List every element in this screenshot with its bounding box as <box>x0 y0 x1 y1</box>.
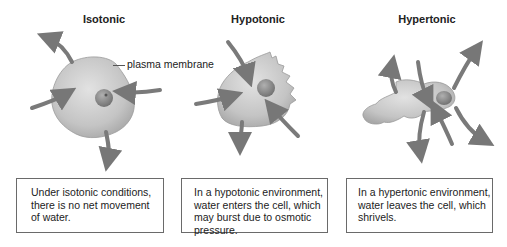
description-line: shrivels. <box>358 211 492 224</box>
isotonic-description-box: Under isotonic conditions, there is no n… <box>16 178 164 233</box>
description-line: In a hypertonic environment, <box>358 186 492 199</box>
hypotonic-description-box: In a hypotonic environment, water enters… <box>181 178 328 233</box>
isotonic-nucleus-icon <box>95 89 113 107</box>
membrane-leader-line <box>113 65 125 66</box>
description-line: water leaves the cell, which <box>358 199 492 212</box>
description-line: pressure. <box>194 224 327 237</box>
hypotonic-nucleus-icon <box>257 79 275 97</box>
plasma-membrane-label: plasma membrane <box>127 58 214 70</box>
hypertonic-title: Hypertonic <box>367 13 487 25</box>
hypertonic-nucleus-icon <box>436 91 452 105</box>
isotonic-title: Isotonic <box>44 13 164 25</box>
description-line: Under isotonic conditions, <box>31 186 163 199</box>
hypertonic-description-box: In a hypertonic environment, water leave… <box>346 178 493 233</box>
description-line: there is no net movement <box>31 199 163 212</box>
hypotonic-title: Hypotonic <box>198 13 318 25</box>
description-line: may burst due to osmotic <box>194 211 327 224</box>
description-line: water enters the cell, which <box>194 199 327 212</box>
description-line: of water. <box>31 211 163 224</box>
description-line: In a hypotonic environment, <box>194 186 327 199</box>
hypotonic-cell <box>218 52 297 127</box>
